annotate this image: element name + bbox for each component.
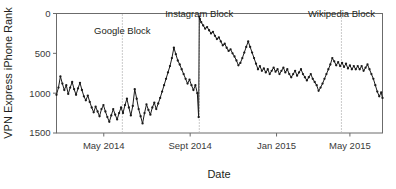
data-point (75, 94, 77, 96)
data-point (173, 47, 175, 49)
data-point (63, 89, 65, 91)
data-point (220, 40, 222, 42)
x-tick-label: May 2014 (83, 140, 125, 151)
data-point (196, 92, 198, 94)
data-point (87, 94, 89, 96)
y-tick-label: 0 (45, 8, 50, 19)
data-point (149, 114, 151, 116)
data-point (329, 63, 331, 65)
data-point (312, 78, 314, 80)
x-tick-label: May 2015 (329, 140, 371, 151)
data-point (132, 105, 134, 107)
data-point (216, 38, 218, 40)
data-point (366, 63, 368, 65)
data-point (235, 59, 237, 61)
data-point (175, 53, 177, 55)
data-point (114, 114, 116, 116)
annotation-label: Google Block (94, 25, 151, 36)
data-point (181, 68, 183, 70)
data-point (292, 73, 294, 75)
data-point (339, 65, 341, 67)
data-point (267, 68, 269, 70)
data-point (274, 71, 276, 73)
annotation-label: Instagram Block (165, 8, 233, 19)
data-point (325, 73, 327, 75)
data-point (161, 90, 163, 92)
data-point (169, 65, 171, 67)
data-point (126, 98, 128, 100)
data-point (296, 74, 298, 76)
data-point (271, 70, 273, 72)
data-point (77, 87, 79, 89)
data-point (304, 76, 306, 78)
data-point (255, 63, 257, 65)
data-point (106, 116, 108, 118)
data-point (186, 82, 188, 84)
data-point (163, 84, 165, 86)
data-point (259, 65, 261, 67)
data-point (317, 90, 319, 92)
data-point (226, 47, 228, 49)
data-point (157, 102, 159, 104)
data-point (253, 57, 255, 59)
data-point (337, 61, 339, 63)
data-point (59, 75, 61, 77)
data-point (269, 73, 271, 75)
data-point (300, 68, 302, 70)
data-point (257, 68, 259, 70)
data-point (288, 73, 290, 75)
data-point (321, 82, 323, 84)
data-point (71, 81, 73, 83)
y-tick-label: 500 (35, 48, 51, 59)
data-point (227, 50, 229, 52)
data-point (349, 64, 351, 66)
data-point (364, 67, 366, 69)
data-point (190, 84, 192, 86)
data-point (284, 71, 286, 73)
data-point (83, 95, 85, 97)
data-point (120, 106, 122, 108)
data-point (380, 91, 382, 93)
data-point (67, 93, 69, 95)
data-point (91, 106, 93, 108)
x-tick-label: Sept 2014 (168, 140, 211, 151)
data-point (89, 101, 91, 103)
y-tick-label: 1500 (29, 127, 50, 138)
data-point (251, 51, 253, 53)
chart-figure: 050010001500 May 2014Sept 2014Jan 2015Ma… (0, 0, 396, 189)
data-point (61, 82, 63, 84)
data-point (202, 24, 204, 26)
data-point (188, 78, 190, 80)
data-point (208, 29, 210, 31)
data-point (118, 112, 120, 114)
data-point (241, 57, 243, 59)
data-point (331, 57, 333, 59)
data-point (224, 43, 226, 45)
data-point (94, 106, 96, 108)
data-point (153, 102, 155, 104)
data-point (73, 88, 75, 90)
data-point (306, 79, 308, 81)
data-point (231, 52, 233, 54)
data-point (155, 108, 157, 110)
data-point (93, 111, 95, 113)
data-point (362, 70, 364, 72)
data-point (345, 63, 347, 65)
data-point (245, 46, 247, 48)
data-point (351, 68, 353, 70)
data-point (282, 67, 284, 69)
data-point (151, 106, 153, 108)
data-point (98, 115, 100, 117)
data-point (229, 48, 231, 50)
data-point (347, 67, 349, 69)
data-point (355, 68, 357, 70)
data-point (212, 31, 214, 33)
data-point (286, 68, 288, 70)
data-point (145, 103, 147, 105)
y-axis-title: VPN Express iPhone Rank (2, 7, 14, 139)
data-point (265, 71, 267, 73)
data-point (357, 65, 359, 67)
data-point (122, 112, 124, 114)
data-point (341, 62, 343, 64)
data-point (57, 86, 59, 88)
